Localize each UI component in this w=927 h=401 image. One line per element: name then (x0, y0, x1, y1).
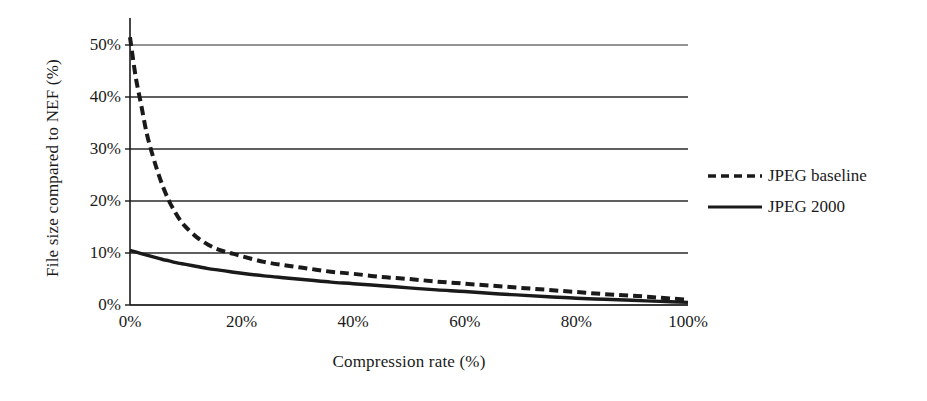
axis-lines (125, 18, 688, 305)
legend-item-label-2: JPEG 2000 (768, 198, 845, 215)
chart-figure: File size compared to NEF (%) 0%10%20%30… (0, 0, 927, 401)
gridlines (130, 45, 688, 305)
x-axis-title: Compression rate (%) (130, 352, 688, 372)
legend-line-samples (708, 176, 762, 207)
series-line-1 (130, 37, 688, 300)
data-series (130, 37, 688, 302)
series-line-2 (130, 250, 688, 302)
legend-item-label-1: JPEG baseline (768, 167, 867, 184)
